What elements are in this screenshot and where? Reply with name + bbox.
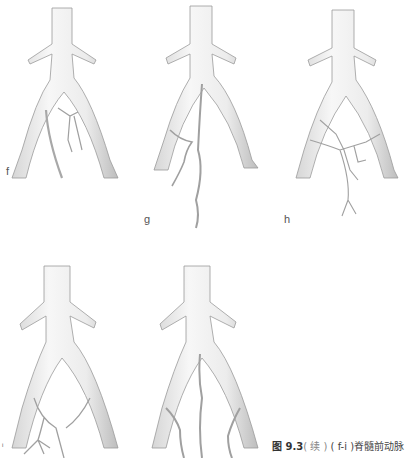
caption-continued: ( 续 ) [303,441,327,452]
panel-label-i: i [2,442,3,448]
aortic-bifurcation-illustration-i [0,258,140,458]
aortic-bifurcation-illustration-g [140,0,280,230]
panel-label-g: g [144,213,150,225]
aortic-bifurcation-illustration-h [280,0,419,230]
caption-figure-number: 图 9.3 [272,441,303,452]
panel-h: h [280,0,419,230]
aortic-bifurcation-illustration-f [0,0,140,200]
panel-i: i [0,258,140,458]
caption-range: ( f-i ) [331,441,355,452]
panel-f: f [0,0,140,200]
panel-g: g [140,0,280,230]
figure-caption: 图 9.3( 续 ) ( f-i )脊髓前动脉 [272,438,404,453]
aortic-bifurcation-illustration-j [140,258,280,458]
caption-text: 脊髓前动脉 [354,441,404,452]
panel-j [140,258,280,458]
panel-label-h: h [284,213,290,225]
panel-label-f: f [6,165,9,177]
